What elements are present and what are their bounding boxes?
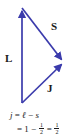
vector-S-line xyxy=(22,8,62,60)
eq1-equals: = xyxy=(15,110,20,120)
vector-label-L: L xyxy=(5,53,12,64)
eq2-term-one: 1 xyxy=(24,124,29,134)
eq1-minus: − xyxy=(28,110,33,120)
eq2-frac1-denominator: 2 xyxy=(39,128,44,135)
eq1-lhs: j xyxy=(10,110,13,120)
eq1-term-s: s xyxy=(35,110,39,120)
eq2-frac1-numerator: 1 xyxy=(39,122,44,128)
eq2-fraction-result: 1 2 xyxy=(54,122,59,135)
vector-label-J: J xyxy=(47,83,53,94)
eq2-equals: = xyxy=(17,124,22,134)
vector-J-line xyxy=(22,65,62,104)
eq1-term-ell: ℓ xyxy=(22,110,26,120)
eq2-equals-2: = xyxy=(47,124,52,134)
equation-block: j = ℓ − s = 1 − 1 2 = 1 2 xyxy=(0,109,80,137)
vector-label-S: S xyxy=(51,21,57,32)
eq2-minus: − xyxy=(31,124,36,134)
eq2-frac2-denominator: 2 xyxy=(54,128,59,135)
eq2-fraction-one-half: 1 2 xyxy=(39,122,44,135)
equation-line-2: = 1 − 1 2 = 1 2 xyxy=(17,122,60,135)
angular-momentum-figure: L S J j = ℓ − s = 1 − 1 2 = 1 2 xyxy=(0,0,80,137)
equation-line-1: j = ℓ − s xyxy=(10,111,39,120)
